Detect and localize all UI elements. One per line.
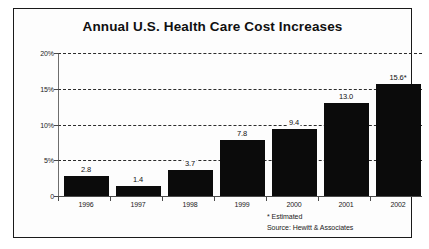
y-tick-label-5: 5% bbox=[44, 157, 54, 164]
x-tick-mark-4 bbox=[266, 197, 267, 201]
chart-figure: Annual U.S. Health Care Cost Increases 0… bbox=[0, 0, 429, 249]
bar-value-1999: 7.8 bbox=[235, 129, 248, 138]
x-tick-mark-1 bbox=[110, 197, 111, 201]
bar-1996 bbox=[64, 176, 109, 196]
x-tick-mark-6 bbox=[370, 197, 371, 201]
bar-value-2000: 9.4 bbox=[287, 118, 300, 127]
y-tick-label-20: 20% bbox=[40, 50, 54, 57]
x-tick-mark-0 bbox=[58, 197, 59, 201]
bar-value-1998: 3.7 bbox=[183, 159, 196, 168]
footnote-source: Source: Hewitt & Associates bbox=[267, 222, 353, 233]
bar-2000 bbox=[272, 129, 317, 196]
x-tick-label-1998: 1998 bbox=[182, 201, 197, 208]
bar-1997 bbox=[116, 186, 161, 196]
bar-value-1996: 2.8 bbox=[79, 165, 92, 174]
plot-area: 05%10%15%20% 2.81.43.77.89.413.015.6* 19… bbox=[58, 53, 422, 232]
x-tick-mark-5 bbox=[318, 197, 319, 201]
y-tick-label-15: 15% bbox=[40, 85, 54, 92]
x-tick-label-1997: 1997 bbox=[130, 201, 145, 208]
footnote-estimated: * Estimated bbox=[267, 211, 353, 222]
x-tick-mark-2 bbox=[162, 197, 163, 201]
y-tick-label-0: 0 bbox=[50, 193, 54, 200]
x-tick-mark-3 bbox=[214, 197, 215, 201]
bar-value-2001: 13.0 bbox=[337, 92, 354, 101]
bar-2001 bbox=[324, 103, 369, 196]
x-tick-label-1996: 1996 bbox=[78, 201, 93, 208]
bar-value-1997: 1.4 bbox=[131, 175, 144, 184]
bars-group bbox=[58, 53, 422, 196]
x-tick-label-1999: 1999 bbox=[234, 201, 249, 208]
x-tick-label-2002: 2002 bbox=[390, 201, 405, 208]
bar-1998 bbox=[168, 170, 213, 196]
chart-frame: Annual U.S. Health Care Cost Increases 0… bbox=[13, 8, 412, 238]
bar-2002 bbox=[376, 84, 421, 196]
y-tick-label-10: 10% bbox=[40, 121, 54, 128]
x-tick-label-2001: 2001 bbox=[338, 201, 353, 208]
x-tick-label-2000: 2000 bbox=[286, 201, 301, 208]
bar-value-2002: 15.6* bbox=[388, 73, 408, 82]
bar-1999 bbox=[220, 140, 265, 196]
footnotes: * Estimated Source: Hewitt & Associates bbox=[267, 211, 353, 233]
chart-title: Annual U.S. Health Care Cost Increases bbox=[14, 19, 411, 34]
